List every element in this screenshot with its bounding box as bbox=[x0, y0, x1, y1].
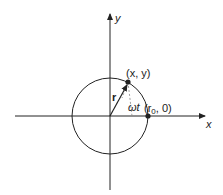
vector-label: r bbox=[112, 91, 117, 103]
point-moving-label: (x, y) bbox=[126, 67, 150, 79]
x-axis-label: x bbox=[205, 118, 212, 130]
point-start-label: (r0, 0) bbox=[144, 102, 172, 116]
circular-motion-diagram: y x (x, y) (r0, 0) r ωt bbox=[0, 0, 223, 195]
y-axis-label: y bbox=[114, 12, 122, 24]
point-start bbox=[145, 113, 150, 118]
point-moving bbox=[125, 79, 130, 84]
angle-label: ωt bbox=[128, 101, 141, 113]
